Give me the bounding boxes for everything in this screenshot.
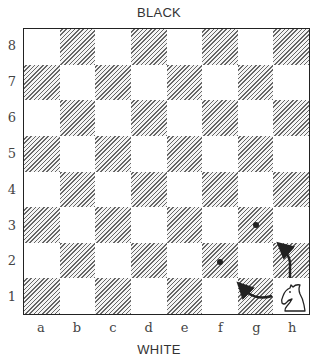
square-e2 <box>167 243 203 279</box>
rank-label-3: 3 <box>6 218 18 233</box>
square-b2 <box>60 243 96 279</box>
file-label-c: c <box>95 320 131 335</box>
square-b3 <box>60 207 96 243</box>
file-label-a: a <box>23 320 59 335</box>
square-f2 <box>202 243 238 279</box>
square-e3 <box>167 207 203 243</box>
square-e7 <box>167 65 203 101</box>
square-d1 <box>131 278 167 314</box>
square-c6 <box>95 100 131 136</box>
square-e5 <box>167 136 203 172</box>
square-d3 <box>131 207 167 243</box>
square-h7 <box>273 65 309 101</box>
square-b8 <box>60 29 96 65</box>
white-side-label: WHITE <box>0 342 318 357</box>
square-g7 <box>238 65 274 101</box>
square-f1 <box>202 278 238 314</box>
square-a5 <box>24 136 60 172</box>
rank-label-1: 1 <box>6 289 18 304</box>
square-f7 <box>202 65 238 101</box>
square-b6 <box>60 100 96 136</box>
square-e6 <box>167 100 203 136</box>
black-side-label: BLACK <box>0 5 318 20</box>
square-f4 <box>202 172 238 208</box>
file-label-d: d <box>131 320 167 335</box>
file-label-f: f <box>203 320 239 335</box>
square-g4 <box>238 172 274 208</box>
square-g2 <box>238 243 274 279</box>
square-h5 <box>273 136 309 172</box>
square-c4 <box>95 172 131 208</box>
square-b5 <box>60 136 96 172</box>
square-a6 <box>24 100 60 136</box>
square-h4 <box>273 172 309 208</box>
square-a4 <box>24 172 60 208</box>
square-h6 <box>273 100 309 136</box>
square-c1 <box>95 278 131 314</box>
rank-label-8: 8 <box>6 38 18 53</box>
rank-label-7: 7 <box>6 74 18 89</box>
square-f8 <box>202 29 238 65</box>
square-d8 <box>131 29 167 65</box>
file-label-e: e <box>167 320 203 335</box>
square-d4 <box>131 172 167 208</box>
square-a1 <box>24 278 60 314</box>
square-d6 <box>131 100 167 136</box>
square-g8 <box>238 29 274 65</box>
square-a2 <box>24 243 60 279</box>
square-h3 <box>273 207 309 243</box>
square-g1 <box>238 278 274 314</box>
square-h2 <box>273 243 309 279</box>
square-e4 <box>167 172 203 208</box>
rank-label-4: 4 <box>6 182 18 197</box>
rank-label-6: 6 <box>6 110 18 125</box>
file-label-b: b <box>59 320 95 335</box>
square-g5 <box>238 136 274 172</box>
square-e1 <box>167 278 203 314</box>
square-d2 <box>131 243 167 279</box>
square-c2 <box>95 243 131 279</box>
square-c3 <box>95 207 131 243</box>
square-a3 <box>24 207 60 243</box>
file-label-h: h <box>274 320 310 335</box>
square-d7 <box>131 65 167 101</box>
square-g3 <box>238 207 274 243</box>
square-d5 <box>131 136 167 172</box>
rank-label-2: 2 <box>6 253 18 268</box>
square-b7 <box>60 65 96 101</box>
square-g6 <box>238 100 274 136</box>
square-f6 <box>202 100 238 136</box>
square-f3 <box>202 207 238 243</box>
square-b1 <box>60 278 96 314</box>
square-f5 <box>202 136 238 172</box>
square-b4 <box>60 172 96 208</box>
chess-board <box>23 28 310 315</box>
rank-label-5: 5 <box>6 146 18 161</box>
square-e8 <box>167 29 203 65</box>
square-a7 <box>24 65 60 101</box>
square-c8 <box>95 29 131 65</box>
square-h8 <box>273 29 309 65</box>
file-label-g: g <box>238 320 274 335</box>
square-a8 <box>24 29 60 65</box>
square-h1 <box>273 278 309 314</box>
square-c7 <box>95 65 131 101</box>
square-c5 <box>95 136 131 172</box>
